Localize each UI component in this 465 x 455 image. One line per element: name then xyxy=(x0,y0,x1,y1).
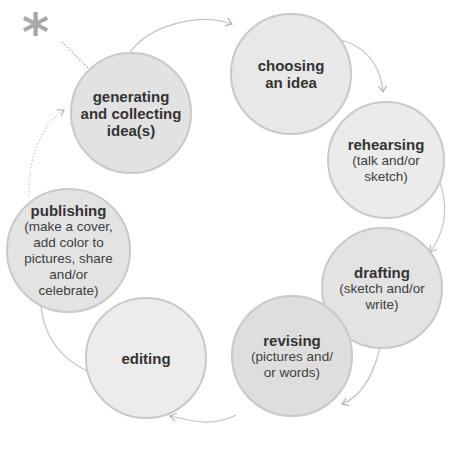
arrow-generating-to-choosing xyxy=(130,20,232,52)
arrow-publishing-to-generating xyxy=(29,110,64,196)
node-publishing: publishing (make a cover, add color to p… xyxy=(6,188,131,313)
node-title-line: an idea xyxy=(265,74,317,91)
node-sub-line: pictures, share xyxy=(24,251,113,267)
node-title-line: choosing xyxy=(258,57,325,74)
node-sub-line: (talk and/or xyxy=(352,153,420,169)
node-rehearsing: rehearsing (talk and/or sketch) xyxy=(327,101,445,219)
node-editing: editing xyxy=(85,297,207,419)
node-title-line: and collecting xyxy=(81,105,182,122)
star-connector xyxy=(62,42,88,68)
node-revising: revising (pictures and/ or words) xyxy=(231,295,353,417)
node-title-line: idea(s) xyxy=(107,122,155,139)
node-title-line: publishing xyxy=(31,202,107,219)
node-sub-line: or words) xyxy=(264,365,320,381)
node-title-line: drafting xyxy=(354,264,410,281)
node-title-line: generating xyxy=(93,88,170,105)
node-sub-line: celebrate) xyxy=(38,283,98,299)
node-title-line: editing xyxy=(121,350,170,367)
node-sub-line: (make a cover, xyxy=(24,219,113,235)
node-sub-line: add color to xyxy=(33,235,104,251)
node-sub-line: (pictures and/ xyxy=(251,349,333,365)
node-title-line: revising xyxy=(263,332,321,349)
node-sub-line: sketch) xyxy=(364,169,408,185)
asterisk-start-icon: * xyxy=(22,6,49,58)
node-sub-line: write) xyxy=(366,297,399,313)
node-sub-line: and/or xyxy=(49,267,87,283)
node-sub-line: (sketch and/or xyxy=(339,281,425,297)
arrow-revising-to-editing xyxy=(170,415,236,422)
node-title-line: rehearsing xyxy=(348,136,425,153)
node-choosing: choosing an idea xyxy=(230,13,352,135)
node-generating: generating and collecting idea(s) xyxy=(70,52,192,174)
